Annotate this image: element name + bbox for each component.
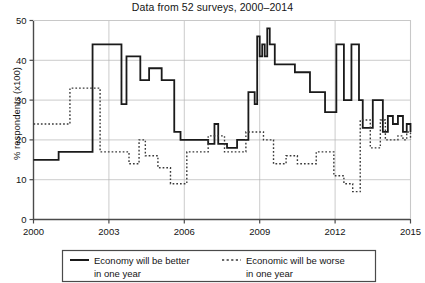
y-axis-ticks: 01020304050 xyxy=(16,15,34,225)
data-series-layer xyxy=(34,28,411,191)
x-tick-label: 2006 xyxy=(174,226,195,237)
x-tick-label: 2009 xyxy=(249,226,270,237)
legend-label-better-line2: in one year xyxy=(94,268,141,279)
gridlines xyxy=(34,21,411,220)
y-tick-label: 30 xyxy=(16,95,27,106)
x-tick-label: 2000 xyxy=(23,226,44,237)
axis-spines xyxy=(33,20,411,220)
x-tick-label: 2015 xyxy=(400,226,421,237)
plot-area: 01020304050 200020032006200920122015 Eco… xyxy=(0,0,425,283)
chart-figure: Data from 52 surveys, 2000–2014 % respon… xyxy=(0,0,425,283)
legend-label-better-line1: Economy will be better xyxy=(94,255,190,266)
chart-legend: Economy will be better in one year Econo… xyxy=(63,251,376,282)
legend-label-worse-line2: in one year xyxy=(246,268,293,279)
y-tick-label: 50 xyxy=(16,15,27,26)
legend-label-worse-line1: Economic will be worse xyxy=(246,255,345,266)
x-tick-label: 2012 xyxy=(325,226,346,237)
x-tick-label: 2003 xyxy=(98,226,119,237)
y-tick-label: 40 xyxy=(16,55,27,66)
y-tick-label: 0 xyxy=(21,214,26,225)
x-axis-ticks: 200020032006200920122015 xyxy=(23,220,421,237)
y-tick-label: 20 xyxy=(16,134,27,145)
y-tick-label: 10 xyxy=(16,174,27,185)
